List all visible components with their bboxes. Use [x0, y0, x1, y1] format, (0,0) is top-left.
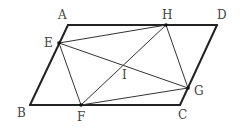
label-E: E — [44, 36, 53, 50]
segment-HG — [166, 25, 188, 88]
point-G-marker — [186, 86, 190, 90]
label-G: G — [194, 84, 204, 98]
parallelogram-diagram: A D H E I G B F C — [0, 0, 240, 130]
label-D: D — [217, 8, 227, 22]
point-H-marker — [164, 23, 168, 27]
point-E-marker — [57, 41, 61, 45]
label-F: F — [77, 110, 85, 124]
label-A: A — [57, 8, 67, 22]
label-C: C — [178, 108, 187, 122]
label-B: B — [17, 106, 26, 120]
point-F-marker — [79, 103, 83, 107]
segment-FE — [59, 43, 81, 105]
inner-segments — [59, 25, 188, 105]
label-H: H — [162, 8, 172, 22]
label-I: I — [122, 68, 127, 82]
